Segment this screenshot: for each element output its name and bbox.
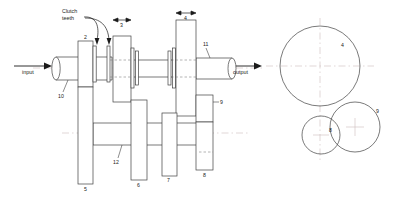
dim3-head-left — [113, 18, 118, 22]
clutch-ring-4-inner — [173, 48, 176, 88]
part-label-10: 10 — [58, 93, 64, 99]
output-label: output — [233, 69, 248, 75]
layshaft-12 — [93, 123, 210, 145]
gear-block-4 — [176, 20, 196, 116]
output-arrow-group: output — [233, 63, 262, 75]
gear-block-3 — [113, 36, 131, 102]
dim3-head-right — [126, 18, 131, 22]
output-shaft-11 — [196, 58, 232, 79]
clutch-teeth-label-line1: Clutch — [62, 8, 77, 14]
dim4-head-right — [191, 11, 196, 15]
clutch-ring-3-inner — [136, 51, 139, 85]
leader-11 — [206, 48, 210, 58]
gearbox-diagram-svg: input output Clutch teeth — [0, 0, 409, 200]
circle-label-9: 9 — [376, 108, 379, 114]
clutch-teeth-leader-b — [85, 18, 109, 40]
input-shaft-end-ellipse — [52, 57, 60, 80]
part-label-9: 9 — [220, 99, 223, 105]
part-label-3: 3 — [120, 22, 123, 28]
circle-label-4: 4 — [341, 42, 344, 48]
clutch-teeth-plate-a — [93, 46, 96, 82]
gear-block-9 — [196, 95, 213, 122]
part-label-11: 11 — [203, 41, 208, 47]
output-arrow-head — [254, 63, 262, 70]
clutch-teeth-plate-b — [107, 46, 110, 82]
clutch-teeth-label-line2: teeth — [62, 15, 74, 21]
circle-diagram — [280, 26, 380, 154]
part-label-8: 8 — [203, 172, 206, 178]
part-label-12: 12 — [113, 159, 119, 165]
gear-block-7 — [162, 113, 177, 176]
clutch-ring-4-outer — [168, 51, 171, 85]
input-label: input — [22, 69, 34, 75]
part-label-4: 4 — [184, 15, 187, 21]
part-label-7: 7 — [167, 177, 170, 183]
gear-block-2 — [78, 41, 93, 87]
part-label-6: 6 — [137, 182, 140, 188]
part-label-5: 5 — [84, 186, 87, 192]
leader-12 — [118, 145, 122, 158]
gear-block-6 — [131, 100, 147, 180]
input-arrow-head — [44, 63, 52, 70]
clutch-teeth-arrowhead-b — [107, 38, 112, 45]
part-label-2: 2 — [84, 34, 87, 40]
input-arrow-group: input — [14, 63, 52, 75]
clutch-teeth-arrowhead-a — [95, 38, 100, 45]
dim4-head-left — [176, 11, 181, 15]
circle-label-8: 8 — [329, 127, 332, 133]
gear-block-8 — [196, 122, 213, 170]
clutch-ring-3-outer — [131, 48, 134, 88]
gear-block-5 — [78, 87, 93, 184]
gearbox-figure: input output Clutch teeth — [0, 0, 409, 200]
leader-10 — [63, 80, 68, 92]
